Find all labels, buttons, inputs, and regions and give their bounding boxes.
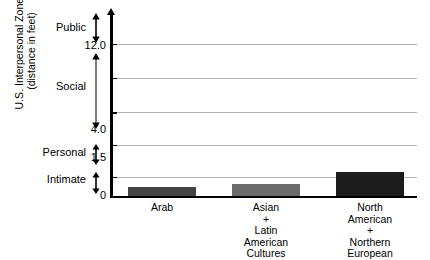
bar-north-american-northern-european [336,172,404,195]
y-axis-line [110,12,113,198]
tickmark-6-6 [110,112,117,114]
zone-arrow-personal [88,144,104,165]
category-label-north-american: North American + Northern European [332,202,408,260]
gridline-9-3 [112,78,417,79]
zone-arrow-column [88,0,104,258]
category-label-asian-latin-line-1: Asian [232,202,300,214]
category-label-arab: Arab [128,202,196,214]
x-axis-category-labels: Arab Asian + Latin American Cultures Nor… [110,200,417,258]
category-label-arab-line-1: Arab [128,202,196,214]
zone-arrow-public [88,13,104,43]
gridline-4 [112,145,417,146]
plot-area [110,8,417,198]
tickmark-9-3 [110,78,117,80]
tickmark-4 [110,145,117,147]
category-label-asian-latin-line-5: Cultures [232,248,300,260]
x-axis-line [110,196,417,199]
category-label-asian-latin-line-3: Latin [232,225,300,237]
category-label-asian-latin: Asian + Latin American Cultures [232,202,300,260]
category-label-north-american-line-1: North [332,202,408,214]
zone-arrow-intimate [88,172,104,194]
tickmark-12 [110,44,117,46]
gridline-12 [112,44,417,45]
category-label-north-american-line-5: European [332,248,408,260]
gridline-6-6 [112,112,417,113]
bar-arab [128,187,196,196]
tickmark-1-5 [110,177,117,179]
zone-arrow-social [88,53,104,129]
bar-asian-latin [232,184,300,196]
category-label-north-american-line-3: + [332,225,408,237]
